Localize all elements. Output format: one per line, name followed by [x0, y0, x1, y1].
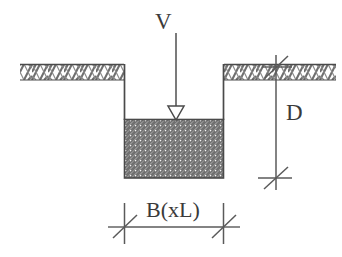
foundation-diagram: V D B(xL) — [0, 0, 342, 257]
load-label: V — [155, 10, 172, 33]
ground-left — [20, 65, 124, 81]
vertical-load-arrow — [168, 33, 184, 120]
depth-label: D — [286, 101, 303, 124]
width-label: B(xL) — [146, 199, 200, 221]
footing-block — [125, 120, 224, 179]
